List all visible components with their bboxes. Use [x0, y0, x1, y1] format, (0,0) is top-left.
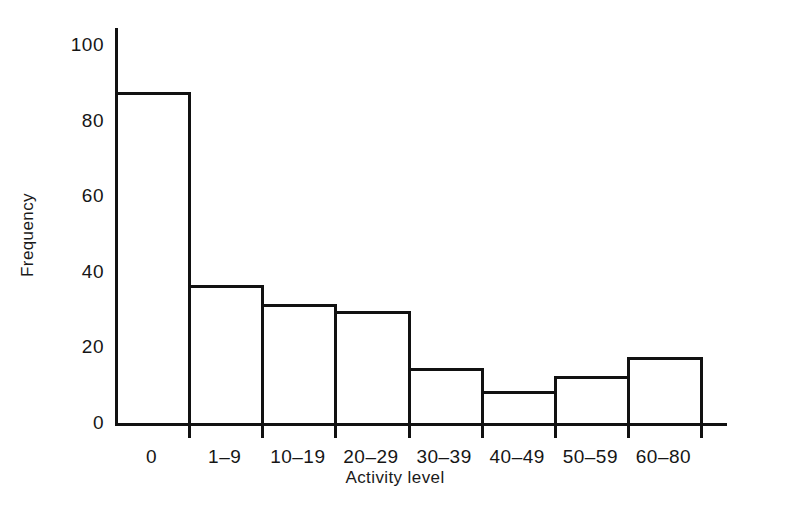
x-axis-tick-label: 30–39 — [416, 446, 471, 468]
y-axis-tick-60: 60 — [44, 185, 104, 207]
x-axis-label: Activity level — [0, 468, 790, 488]
plot-area: 01–910–1920–2930–3940–4950–5960–80 — [115, 28, 727, 425]
x-axis-tick-mark — [627, 423, 630, 438]
x-axis-tick-mark — [700, 423, 703, 438]
x-axis-tick-mark — [481, 423, 484, 438]
x-axis-tick-label: 10–19 — [270, 446, 325, 468]
x-axis-tick-label: 1–9 — [208, 446, 241, 468]
y-axis-tick-20: 20 — [44, 336, 104, 358]
y-axis-tick-40: 40 — [44, 261, 104, 283]
x-axis-tick-mark — [334, 423, 337, 438]
histogram-bar — [554, 376, 630, 423]
x-axis-tick-mark — [408, 423, 411, 438]
x-axis-tick-mark — [554, 423, 557, 438]
histogram-bars — [115, 28, 700, 425]
x-axis-tick-label: 0 — [146, 446, 157, 468]
x-axis-tick-label: 60–80 — [636, 446, 691, 468]
x-axis-tick-label: 40–49 — [490, 446, 545, 468]
y-axis-tick-80: 80 — [44, 110, 104, 132]
histogram-bar — [261, 304, 337, 423]
histogram-figure: Frequency 020406080100 01–910–1920–2930–… — [0, 0, 790, 529]
histogram-bar — [408, 368, 484, 423]
histogram-bar — [115, 92, 191, 423]
x-axis-tick-label: 20–29 — [343, 446, 398, 468]
y-axis-tick-0: 0 — [44, 412, 104, 434]
histogram-bar — [481, 391, 557, 423]
x-axis-tick-label: 50–59 — [563, 446, 618, 468]
y-axis-tick-labels: 020406080100 — [42, 0, 104, 529]
histogram-bar — [188, 285, 264, 423]
x-axis-tick-mark — [261, 423, 264, 438]
x-axis-tick-mark — [188, 423, 191, 438]
histogram-bar — [334, 311, 410, 423]
histogram-bar — [627, 357, 703, 423]
y-axis-tick-100: 100 — [44, 34, 104, 56]
